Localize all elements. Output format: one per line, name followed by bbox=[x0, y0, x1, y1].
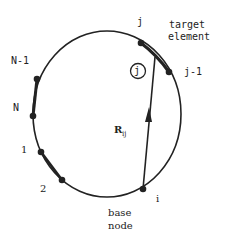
label-node-j-minus-1: j-1 bbox=[184, 66, 202, 77]
label-node-n: N bbox=[13, 102, 19, 113]
label-target: target bbox=[169, 19, 205, 30]
element-segment-1 bbox=[41, 152, 62, 180]
node-i bbox=[140, 186, 147, 193]
label-vector-subscript: ij bbox=[122, 129, 126, 140]
label-node-1: 1 bbox=[21, 144, 27, 155]
label-node-j: j bbox=[137, 16, 143, 27]
label-element: element bbox=[168, 31, 210, 42]
label-node-2: 2 bbox=[40, 183, 46, 194]
node-1 bbox=[38, 149, 45, 156]
node-j-minus-1 bbox=[166, 69, 173, 76]
label-circled-j: j bbox=[134, 65, 140, 76]
element-segment-n bbox=[33, 79, 37, 116]
vector-rij-line bbox=[143, 57, 155, 189]
label-base: base bbox=[108, 207, 131, 218]
node-n-minus-1 bbox=[34, 76, 41, 83]
label-node-n-minus-1: N-1 bbox=[11, 55, 29, 66]
label-node-i: i bbox=[156, 193, 159, 204]
label-node: node bbox=[108, 220, 133, 231]
node-j bbox=[138, 40, 145, 47]
boundary-element-diagram: j target element j-1 j N-1 N 1 2 i base … bbox=[0, 0, 225, 237]
node-2 bbox=[59, 177, 66, 184]
node-n bbox=[30, 113, 37, 120]
